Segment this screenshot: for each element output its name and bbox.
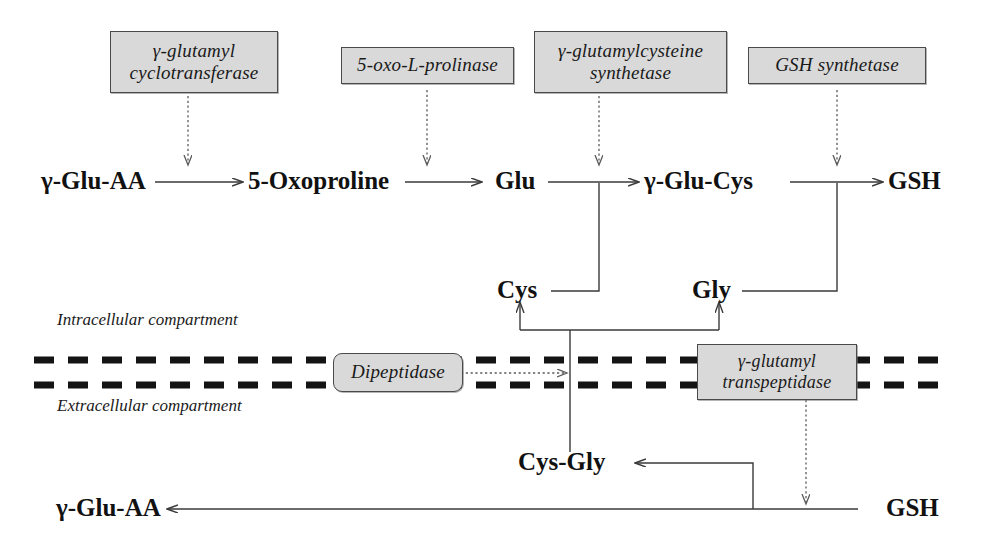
pathway-diagram: γ-glutamyl cyclotransferase 5-oxo-L-prol… [0, 0, 982, 539]
enzyme-label: 5-oxo-L-prolinase [357, 54, 498, 76]
metabolite-gamma-glu-aa-bottom: γ-Glu-AA [56, 494, 161, 522]
arrow-gsh-to-cysgly [636, 463, 753, 509]
enzyme-label-line1: γ-glutamyl [738, 351, 816, 371]
metabolite-gsh-bottom: GSH [886, 494, 939, 522]
enzyme-label-line2: synthetase [590, 62, 671, 83]
enzyme-label: γ-glutamyl transpeptidase [723, 351, 832, 393]
enzyme-box-gamma-glutamylcysteine-synthetase[interactable]: γ-glutamylcysteine synthetase [534, 31, 727, 93]
enzyme-label-line2: cyclotransferase [130, 62, 259, 83]
enzyme-label: γ-glutamyl cyclotransferase [130, 40, 259, 85]
connector-cysgly-uptake [520, 303, 719, 452]
connector-gly-to-pathway [742, 183, 837, 291]
enzyme-label-line1: γ-glutamyl [153, 40, 235, 61]
metabolite-5-oxoproline: 5-Oxoproline [248, 167, 389, 195]
metabolite-gamma-glu-aa-top: γ-Glu-AA [41, 167, 146, 195]
metabolite-cys: Cys [497, 276, 537, 304]
metabolite-cys-gly: Cys-Gly [518, 448, 606, 476]
metabolite-glu: Glu [495, 167, 535, 195]
enzyme-box-gsh-synthetase[interactable]: GSH synthetase [748, 47, 926, 84]
connector-cys-to-pathway [551, 183, 599, 291]
enzyme-label-line2: transpeptidase [723, 372, 832, 392]
label-extracellular-compartment: Extracellular compartment [57, 396, 242, 416]
enzyme-box-gamma-glutamyl-transpeptidase[interactable]: γ-glutamyl transpeptidase [697, 344, 857, 400]
enzyme-label: γ-glutamylcysteine synthetase [558, 40, 703, 85]
enzyme-label-line1: γ-glutamylcysteine [558, 40, 703, 61]
metabolite-gly: Gly [692, 276, 731, 304]
enzyme-label: Dipeptidase [351, 361, 445, 383]
enzyme-label: GSH synthetase [775, 54, 899, 76]
metabolite-gsh-top: GSH [888, 167, 941, 195]
label-intracellular-compartment: Intracellular compartment [57, 310, 238, 330]
enzyme-box-5-oxo-l-prolinase[interactable]: 5-oxo-L-prolinase [341, 47, 514, 84]
enzyme-box-gamma-glutamyl-cyclotransferase[interactable]: γ-glutamyl cyclotransferase [110, 31, 278, 93]
metabolite-gamma-glu-cys: γ-Glu-Cys [644, 167, 753, 195]
enzyme-box-dipeptidase[interactable]: Dipeptidase [333, 353, 463, 392]
